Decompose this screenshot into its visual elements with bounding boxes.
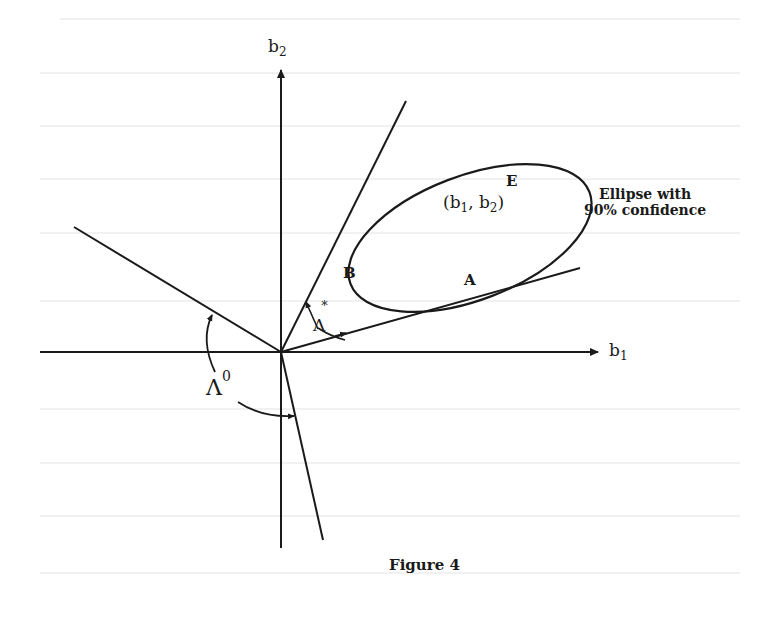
- outer-angle-arc-lower: [238, 402, 294, 416]
- tangent-point-b: B: [343, 264, 356, 282]
- figure-4: b2 b1 E (b1, b2) Ellipse with 90% confid…: [0, 0, 763, 618]
- confidence-ellipse: [328, 134, 611, 342]
- lower-boundary-line: [281, 352, 323, 540]
- upper-tangent-line: [281, 101, 406, 352]
- ellipse-center-label: (b1, b2): [443, 192, 504, 215]
- b2-axis-label: b2: [268, 36, 287, 59]
- b1-axis-label: b1: [609, 340, 628, 363]
- tangent-point-a: A: [464, 271, 476, 289]
- ellipse-annotation: Ellipse with 90% confidence: [584, 186, 706, 218]
- left-boundary-line: [74, 227, 281, 352]
- diagram-canvas: [0, 0, 763, 618]
- ellipse-label-e: E: [506, 172, 517, 190]
- outer-angle-arc-upper: [207, 315, 215, 372]
- figure-caption: Figure 4: [389, 556, 460, 574]
- outer-angle-label: Λ0: [206, 374, 231, 400]
- inner-angle-label: Λ*: [313, 312, 332, 335]
